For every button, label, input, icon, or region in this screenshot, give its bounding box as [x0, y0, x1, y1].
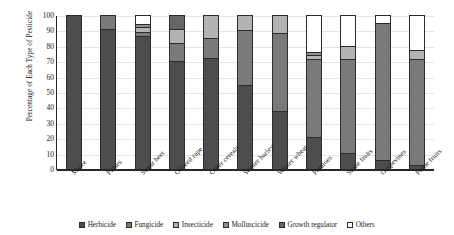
y-axis-tick-label: 70	[26, 58, 54, 66]
bar-column[interactable]	[307, 16, 321, 169]
bar-segment[interactable]	[376, 24, 390, 162]
legend-label: Others	[356, 221, 375, 229]
legend-item[interactable]: Herbicide	[79, 221, 116, 229]
legend-item[interactable]: Insecticide	[173, 221, 213, 229]
bar-column[interactable]	[341, 16, 355, 169]
bar-segment[interactable]	[170, 16, 184, 30]
bar-column[interactable]	[238, 16, 252, 169]
bar-column[interactable]	[273, 16, 287, 169]
legend-swatch-icon	[347, 222, 353, 228]
y-axis-tick-label: 60	[26, 74, 54, 82]
bar-segment[interactable]	[273, 16, 287, 34]
bar-segment[interactable]	[376, 16, 390, 24]
bar-segment[interactable]	[204, 16, 218, 39]
bar-segment[interactable]	[341, 60, 355, 153]
bar-segment[interactable]	[341, 16, 355, 47]
bar-segment[interactable]	[238, 31, 252, 86]
legend-label: Molluscicide	[231, 221, 269, 229]
legend-label: Herbicide	[88, 221, 116, 229]
bar-segment[interactable]	[136, 16, 150, 25]
legend-item[interactable]: Others	[347, 221, 375, 229]
x-axis-tick-labels: MaizePulsesSugar beetOilseed rapeOther c…	[56, 171, 434, 213]
bar-column[interactable]	[376, 16, 390, 169]
bar-column[interactable]	[136, 16, 150, 169]
legend-label: Fungicide	[135, 221, 164, 229]
legend-swatch-icon	[126, 222, 132, 228]
bar-segment[interactable]	[136, 37, 150, 169]
bar-column[interactable]	[204, 16, 218, 169]
legend-swatch-icon	[173, 222, 179, 228]
y-axis-tick-label: 20	[26, 135, 54, 143]
bar-column[interactable]	[410, 16, 424, 169]
bar-segment[interactable]	[204, 39, 218, 59]
bar-segment[interactable]	[204, 59, 218, 169]
y-axis-tick-label: 10	[26, 151, 54, 159]
y-axis-tick-label: 40	[26, 105, 54, 113]
y-axis-tick-label: 30	[26, 120, 54, 128]
legend-swatch-icon	[79, 222, 85, 228]
bar-segment[interactable]	[238, 86, 252, 169]
bar-segment[interactable]	[273, 34, 287, 112]
y-axis-tick-label: 90	[26, 28, 54, 36]
legend-item[interactable]: Growth regulator	[279, 221, 337, 229]
bar-segment[interactable]	[410, 16, 424, 51]
y-axis-tick-label: 100	[26, 12, 54, 20]
bar-segment[interactable]	[410, 60, 424, 166]
bar-segment[interactable]	[101, 30, 115, 169]
bar-segment[interactable]	[67, 16, 81, 169]
bar-segment[interactable]	[170, 44, 184, 62]
bar-segment[interactable]	[410, 51, 424, 60]
y-axis-tick-label: 80	[26, 43, 54, 51]
y-axis-tick-label: 50	[26, 89, 54, 97]
legend-swatch-icon	[279, 222, 285, 228]
bar-segment[interactable]	[101, 16, 115, 30]
bar-segment[interactable]	[341, 47, 355, 61]
chart-root: Percentage of Each Type of Pesticide 010…	[0, 0, 454, 235]
bar-segment[interactable]	[170, 62, 184, 169]
bar-segment[interactable]	[307, 16, 321, 53]
bar-column[interactable]	[67, 16, 81, 169]
legend-item[interactable]: Fungicide	[126, 221, 163, 229]
bar-segment[interactable]	[238, 16, 252, 31]
chart-legend: HerbicideFungicideInsecticideMolluscicid…	[0, 221, 454, 229]
bar-column[interactable]	[101, 16, 115, 169]
legend-swatch-icon	[223, 222, 229, 228]
bar-column[interactable]	[170, 16, 184, 169]
legend-label: Growth regulator	[287, 221, 337, 229]
bar-group	[57, 16, 434, 169]
bar-segment[interactable]	[307, 60, 321, 138]
plot-area: 0102030405060708090100	[56, 16, 434, 170]
bar-segment[interactable]	[170, 30, 184, 44]
y-axis-tick-label: 0	[26, 166, 54, 174]
legend-label: Insecticide	[182, 221, 213, 229]
legend-item[interactable]: Molluscicide	[223, 221, 269, 229]
